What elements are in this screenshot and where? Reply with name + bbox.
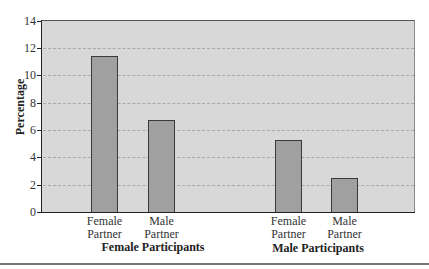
category-label-line: Partner	[259, 228, 319, 241]
y-tick	[37, 75, 41, 76]
y-tick	[37, 103, 41, 104]
y-tick-label: 0	[14, 206, 36, 218]
category-label: MalePartner	[315, 215, 375, 241]
category-label: FemalePartner	[259, 215, 319, 241]
y-tick-label: 2	[14, 179, 36, 191]
y-tick-label: 14	[14, 15, 36, 27]
y-tick	[37, 157, 41, 158]
y-tick	[37, 21, 41, 22]
x-axis-line	[41, 212, 415, 213]
y-tick-label: 12	[14, 42, 36, 54]
bar	[275, 140, 302, 212]
group-label-female-participants: Female Participants	[73, 240, 233, 255]
y-tick	[37, 185, 41, 186]
y-tick-label: 4	[14, 151, 36, 163]
category-label: FemalePartner	[75, 215, 135, 241]
bar	[91, 56, 118, 212]
bar	[148, 120, 175, 212]
y-axis-title: Percentage	[13, 79, 28, 135]
bar	[331, 178, 358, 212]
bottom-divider	[0, 263, 429, 265]
bar-chart: 02468101214 FemalePartnerMalePartnerFema…	[0, 0, 429, 269]
gridline	[43, 48, 414, 49]
category-label-line: Partner	[315, 228, 375, 241]
y-tick	[37, 130, 41, 131]
y-tick	[37, 212, 41, 213]
y-tick	[37, 48, 41, 49]
group-label-male-participants: Male Participants	[238, 241, 398, 256]
y-axis-line	[41, 20, 42, 213]
category-label: MalePartner	[132, 215, 192, 241]
